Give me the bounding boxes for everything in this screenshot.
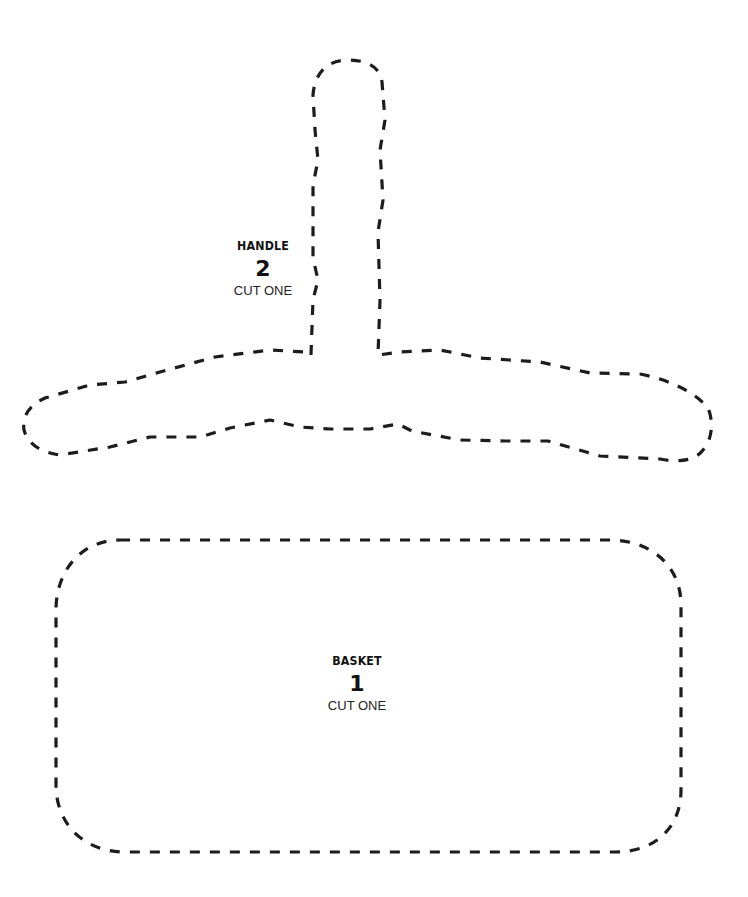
handle-cut-instruction: CUT ONE [234,283,292,298]
basket-piece-number: 1 [328,672,386,696]
handle-label: HANDLE 2 CUT ONE [234,239,292,298]
basket-piece-name: BASKET [330,654,384,668]
basket-cut-instruction: CUT ONE [328,698,386,713]
pattern-sheet [0,0,748,897]
handle-cut-outline [24,60,712,461]
handle-piece-number: 2 [234,257,292,281]
handle-piece-name: HANDLE [236,239,290,253]
basket-label: BASKET 1 CUT ONE [328,654,386,713]
